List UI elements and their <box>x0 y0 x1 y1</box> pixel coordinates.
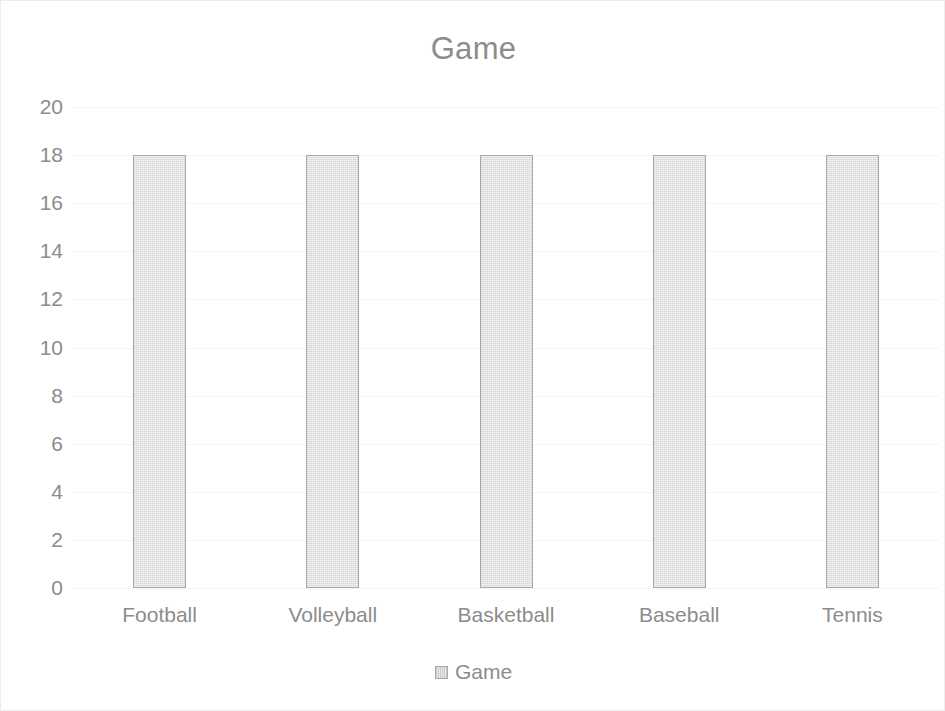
y-tick-label: 16 <box>5 192 63 213</box>
x-tick-label-baseball: Baseball <box>593 601 766 629</box>
y-tick-label: 18 <box>5 144 63 165</box>
y-tick-label: 4 <box>5 481 63 502</box>
x-tick-label-tennis: Tennis <box>766 601 939 629</box>
bar-tennis[interactable] <box>826 155 879 588</box>
x-tick-label-volleyball: Volleyball <box>246 601 419 629</box>
bar-basketball[interactable] <box>480 155 533 588</box>
y-tick-label: 0 <box>5 577 63 598</box>
y-tick-label: 10 <box>5 337 63 358</box>
bar-baseball[interactable] <box>653 155 706 588</box>
chart-title: Game <box>1 29 945 69</box>
y-tick-label: 20 <box>5 96 63 117</box>
gridline <box>73 588 939 589</box>
bar-series-game <box>73 107 939 588</box>
x-tick-label-basketball: Basketball <box>419 601 592 629</box>
y-axis: 20181614121086420 <box>1 107 63 588</box>
x-tick-label-football: Football <box>73 601 246 629</box>
y-tick-label: 12 <box>5 288 63 309</box>
x-axis: FootballVolleyballBasketballBaseballTenn… <box>73 601 939 635</box>
y-tick-label: 8 <box>5 385 63 406</box>
chart-canvas: Game 20181614121086420 FootballVolleybal… <box>0 0 945 711</box>
y-tick-label: 6 <box>5 433 63 454</box>
y-tick-label: 14 <box>5 240 63 261</box>
legend-swatch-icon <box>435 666 448 679</box>
bar-volleyball[interactable] <box>306 155 359 588</box>
y-tick-label: 2 <box>5 529 63 550</box>
bar-football[interactable] <box>133 155 186 588</box>
chart-legend: Game <box>1 660 945 684</box>
legend-label-game: Game <box>455 660 512 684</box>
